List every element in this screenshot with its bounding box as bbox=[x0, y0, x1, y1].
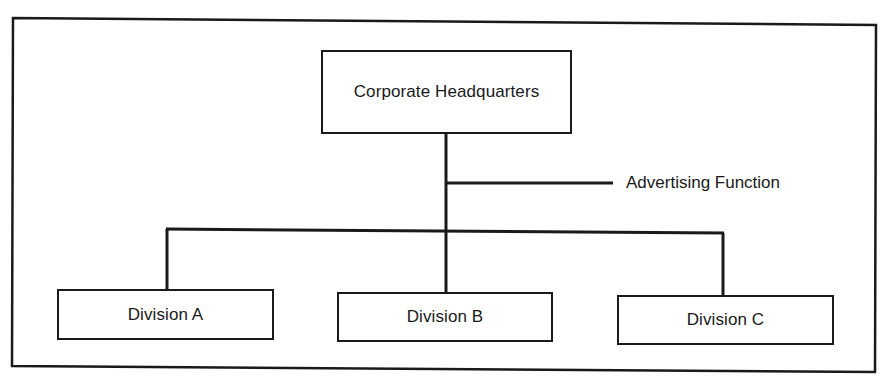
division-b-label: Division B bbox=[407, 307, 484, 327]
division-a-label: Division A bbox=[128, 305, 204, 325]
division-a-box: Division A bbox=[57, 289, 274, 340]
division-bus-line bbox=[166, 229, 724, 233]
division-c-label: Division C bbox=[687, 310, 765, 330]
advertising-function-label: Advertising Function bbox=[626, 173, 780, 193]
corporate-headquarters-box: Corporate Headquarters bbox=[321, 50, 572, 134]
division-c-box: Division C bbox=[617, 295, 834, 345]
corporate-headquarters-label: Corporate Headquarters bbox=[354, 82, 540, 102]
division-b-box: Division B bbox=[337, 292, 553, 342]
